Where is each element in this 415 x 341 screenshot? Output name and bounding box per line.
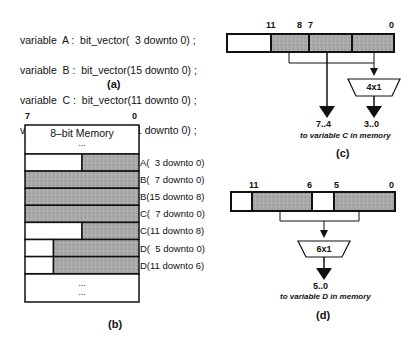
caption-d: (d) <box>316 309 330 321</box>
memory-row-used <box>82 154 139 171</box>
register-c-bit-0: 0 <box>389 20 394 30</box>
register-d-unused-high <box>231 192 252 211</box>
register-d <box>231 192 395 280</box>
memory-msb-label: 7 <box>25 111 30 121</box>
register-d-bit-0: 0 <box>389 180 394 190</box>
register-d-bit-5: 5 <box>334 180 339 190</box>
register-c-bits-7-4 <box>309 34 352 52</box>
memory-row-label: B( 7 downto 0) <box>140 174 204 185</box>
memory-row-label: B(15 downto 8) <box>140 191 204 202</box>
memory-row-label: C( 7 downto 0) <box>140 208 205 219</box>
memory-row-label: A( 3 downto 0) <box>140 157 204 168</box>
register-c <box>227 34 400 118</box>
arrow-c-right-out <box>366 106 382 118</box>
memory-row-label: D(11 downto 6) <box>140 260 204 271</box>
memory-row-used <box>54 257 140 274</box>
memory-lsb-label: 0 <box>132 111 137 121</box>
memory-row-free <box>25 257 54 274</box>
memory-row-label: D( 5 downto 0) <box>140 243 205 254</box>
register-d-bits-5-0 <box>334 192 395 211</box>
caption-c: (c) <box>336 147 349 159</box>
register-c-bits-11-8 <box>271 34 309 52</box>
register-d-bit-11: 11 <box>249 180 259 190</box>
memory-row-free <box>25 222 82 239</box>
memory-block <box>25 125 139 302</box>
memory-row-used <box>54 240 140 257</box>
register-c-bit-8: 8 <box>297 20 302 30</box>
register-c-bit-11: 11 <box>266 20 276 30</box>
note-d: to variable D in memory <box>280 292 371 301</box>
arrow-d-mux-in <box>320 230 328 238</box>
memory-row-used <box>25 188 139 205</box>
register-d-bits-11-6 <box>252 192 312 211</box>
memory-row-label: C(11 downto 8) <box>140 225 204 236</box>
memory-row-free <box>25 240 54 257</box>
caption-b: (b) <box>108 318 122 330</box>
memory-row-used <box>25 205 139 222</box>
register-c-bits-3-0 <box>352 34 394 52</box>
memory-top-ellipsis: ... <box>25 138 139 148</box>
memory-row-free <box>25 154 82 171</box>
output-c-low: 3..0 <box>364 119 379 129</box>
memory-row-used <box>25 171 139 188</box>
wire-d-bus <box>280 211 359 221</box>
mux-4x1-label: 4x1 <box>348 82 400 92</box>
register-d-unused-mid <box>312 192 334 211</box>
output-c-high: 7..4 <box>316 119 331 129</box>
register-c-bit-7: 7 <box>308 20 313 30</box>
mux-6x1-label: 6x1 <box>298 244 350 254</box>
arrow-c-mux-in <box>370 68 378 76</box>
memory-bottom-ellipsis-2: ... <box>25 287 139 297</box>
output-d: 5..0 <box>313 281 328 291</box>
arrow-d-out <box>316 268 332 280</box>
register-c-unused <box>227 34 271 52</box>
memory-row-used <box>82 222 139 239</box>
register-d-bit-6: 6 <box>307 180 312 190</box>
arrow-c-left-out <box>319 106 335 118</box>
wire-c-bus <box>289 52 374 63</box>
note-c: to variable C in memory <box>300 131 391 140</box>
